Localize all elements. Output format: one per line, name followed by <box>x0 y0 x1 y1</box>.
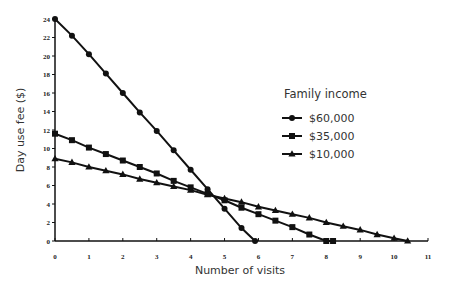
x-tick-label: 1 <box>87 253 91 261</box>
x-tick-label: 3 <box>155 253 159 261</box>
x-axis-label: Number of visits <box>195 264 285 277</box>
y-tick-label: 22 <box>43 34 51 42</box>
y-tick-label: 14 <box>43 108 51 116</box>
series-circle <box>52 16 258 244</box>
y-tick-label: 12 <box>43 127 51 135</box>
svg-text:$35,000: $35,000 <box>309 130 355 143</box>
x-tick-label: 0 <box>53 253 57 261</box>
x-tick-label: 4 <box>189 253 193 261</box>
y-tick-label: 24 <box>43 16 51 24</box>
y-tick-label: 8 <box>47 164 51 172</box>
series-square <box>52 131 336 244</box>
x-tick-label: 10 <box>391 253 399 261</box>
y-axis-label: Day use fee ($) <box>14 88 27 173</box>
y-tick-label: 18 <box>43 71 51 79</box>
y-tick-label: 4 <box>47 201 51 209</box>
y-tick-label: 20 <box>43 53 51 61</box>
legend: Family income $60,000$35,000$10,000 <box>282 87 367 161</box>
x-tick-label: 11 <box>425 253 432 261</box>
x-tick-label: 6 <box>257 253 261 261</box>
series-triangle <box>51 155 411 244</box>
svg-text:$10,000: $10,000 <box>309 148 355 161</box>
legend-item: $35,000 <box>282 130 355 143</box>
x-tick-label: 9 <box>358 253 362 261</box>
x-tick-label: 5 <box>223 253 227 261</box>
y-tick-label: 0 <box>47 238 51 246</box>
x-tick-label: 2 <box>121 253 125 261</box>
legend-item: $60,000 <box>282 112 355 125</box>
y-tick-label: 2 <box>47 219 51 227</box>
line-chart: 02468101214161820222401234567891011 Numb… <box>0 0 451 295</box>
y-tick-label: 6 <box>47 182 51 190</box>
y-tick-label: 16 <box>43 90 51 98</box>
x-tick-label: 8 <box>325 253 329 261</box>
series-lines <box>51 16 411 244</box>
legend-title: Family income <box>284 87 367 101</box>
svg-text:$60,000: $60,000 <box>309 112 355 125</box>
legend-item: $10,000 <box>282 148 355 161</box>
y-tick-label: 10 <box>43 145 51 153</box>
x-tick-label: 7 <box>291 253 295 261</box>
